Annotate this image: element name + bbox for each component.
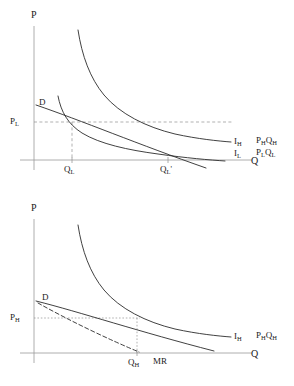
quantity-tick-label-QL: QL xyxy=(64,165,74,174)
chart-panel-top: P PL D QL QL' IH IL Q PHQH PLQL xyxy=(0,0,294,193)
demand-label-bottom: D xyxy=(42,293,49,302)
price-tick-label-PL: PL xyxy=(10,117,19,126)
curve-indifference-high-top xyxy=(78,30,231,142)
x-axis-label-bottom: Q xyxy=(251,349,258,359)
curve-label-IH-bottom: IH xyxy=(234,332,242,341)
curve-label-IL-top: IL xyxy=(234,149,241,158)
y-axis-label-top: P xyxy=(31,10,37,20)
demand-label-top: D xyxy=(39,98,46,107)
quantity-tick-label-QL-prime: QL' xyxy=(160,165,172,174)
price-discrimination-figure: P PL D QL QL' IH IL Q PHQH PLQL xyxy=(0,0,294,386)
curve-label-IH-top: IH xyxy=(234,137,242,146)
curve-indifference-high-bottom xyxy=(78,225,231,337)
marginal-revenue-label: MR xyxy=(153,357,167,366)
bundle-label-low-top: PLQL xyxy=(256,148,275,157)
demand-line-top xyxy=(36,105,206,168)
price-tick-label-PH: PH xyxy=(10,313,20,322)
marginal-revenue-line xyxy=(38,303,139,352)
chart-panel-bottom: P PH D QH MR IH Q PHQH xyxy=(0,193,294,386)
bundle-label-high-bottom: PHQH xyxy=(256,331,277,340)
y-axis-label-bottom: P xyxy=(31,203,37,213)
curve-indifference-low-top xyxy=(58,96,225,161)
quantity-tick-label-QH: QH xyxy=(128,358,139,367)
x-axis-label-top: Q xyxy=(251,156,258,166)
bundle-label-high-top: PHQH xyxy=(256,136,277,145)
